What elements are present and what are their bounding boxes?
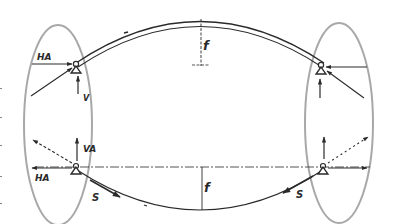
bottom-left-support: HA VA S [32, 138, 120, 203]
cable [77, 170, 323, 210]
top-left-h-label: HA [37, 52, 52, 62]
bottom-left-v-label: VA [83, 144, 96, 154]
right-support-ellipse [305, 23, 373, 223]
cable-sag-label: f [204, 180, 212, 195]
bottom-left-h-label: HA [35, 173, 50, 183]
arch-rise-label: f [203, 38, 211, 53]
top-right-support [316, 62, 367, 98]
arch-cable-diagram: f HA V f HA VA S [0, 0, 395, 224]
top-left-v-label: V [83, 94, 90, 103]
bottom-right-support: S [283, 137, 368, 200]
left-support-ellipse [24, 25, 92, 224]
margin-marks [0, 88, 2, 204]
cable-sag-dimension: f [202, 167, 212, 210]
bottom-right-s-label: S [296, 189, 303, 200]
bottom-left-s-label: S [92, 192, 99, 203]
arch [76, 22, 324, 68]
